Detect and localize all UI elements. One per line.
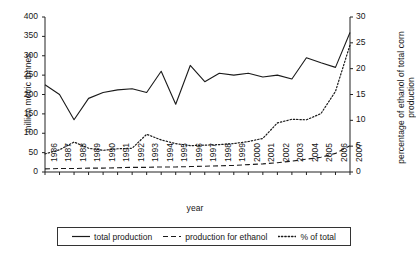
- legend-item: total production: [72, 232, 152, 242]
- legend-label: % of total: [300, 232, 335, 242]
- legend-label: production for ethanol: [185, 232, 267, 242]
- legend-swatch-dotted: [278, 233, 296, 240]
- legend-item: production for ethanol: [163, 232, 267, 242]
- legend-label: total production: [94, 232, 152, 242]
- chart-legend: total productionproduction for ethanol% …: [57, 227, 351, 246]
- series-line: [45, 33, 350, 120]
- legend-swatch-dashed: [163, 233, 181, 240]
- legend-swatch-solid: [72, 233, 90, 240]
- legend-item: % of total: [278, 232, 335, 242]
